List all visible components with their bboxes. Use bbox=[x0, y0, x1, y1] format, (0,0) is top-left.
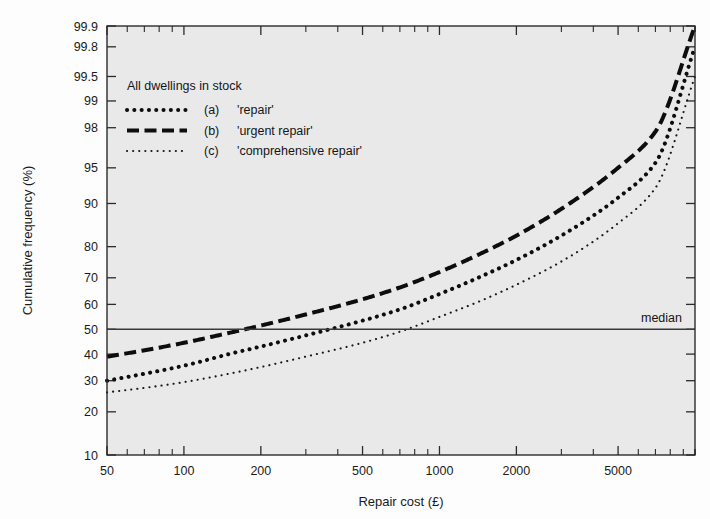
y-tick-label: 30 bbox=[84, 374, 98, 388]
y-tick-label: 80 bbox=[84, 240, 98, 254]
x-axis-title: Repair cost (£) bbox=[358, 494, 443, 509]
legend-label-b: 'urgent repair' bbox=[237, 124, 313, 138]
y-tick-label: 98 bbox=[84, 121, 98, 135]
x-axis-tick-labels: 50100200500100020005000 bbox=[100, 464, 632, 478]
x-tick-label: 1000 bbox=[426, 464, 454, 478]
legend-title: All dwellings in stock bbox=[127, 79, 242, 93]
legend-key-a: (a) bbox=[204, 103, 219, 117]
chart-canvas: 50100200500100020005000 1020304050607080… bbox=[0, 0, 710, 519]
y-axis-title: Cumulative frequency (%) bbox=[20, 166, 35, 316]
legend-key-b: (b) bbox=[204, 124, 219, 138]
x-tick-label: 500 bbox=[352, 464, 373, 478]
x-tick-label: 5000 bbox=[604, 464, 632, 478]
x-tick-label: 100 bbox=[173, 464, 194, 478]
y-tick-label: 10 bbox=[84, 449, 98, 463]
legend-label-c: 'comprehensive repair' bbox=[237, 144, 362, 158]
y-tick-label: 99.8 bbox=[74, 40, 98, 54]
figure-root: 50100200500100020005000 1020304050607080… bbox=[0, 0, 710, 519]
legend-key-c: (c) bbox=[204, 144, 219, 158]
y-tick-label: 60 bbox=[84, 298, 98, 312]
y-tick-label: 40 bbox=[84, 348, 98, 362]
y-tick-label: 20 bbox=[84, 405, 98, 419]
y-tick-label: 70 bbox=[84, 271, 98, 285]
y-tick-label: 50 bbox=[84, 323, 98, 337]
median-label: median bbox=[641, 311, 682, 325]
x-tick-label: 2000 bbox=[502, 464, 530, 478]
legend-label-a: 'repair' bbox=[237, 103, 274, 117]
y-tick-label: 90 bbox=[84, 197, 98, 211]
x-tick-label: 200 bbox=[250, 464, 271, 478]
y-tick-label: 99.9 bbox=[74, 20, 98, 34]
y-tick-label: 99 bbox=[84, 94, 98, 108]
y-tick-label: 99.5 bbox=[74, 70, 98, 84]
y-tick-label: 95 bbox=[84, 161, 98, 175]
y-axis-tick-labels: 10203040506070809095989999.599.899.9 bbox=[74, 20, 98, 463]
x-tick-label: 50 bbox=[100, 464, 114, 478]
